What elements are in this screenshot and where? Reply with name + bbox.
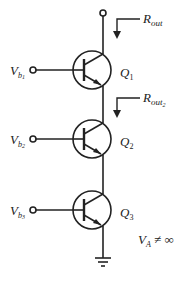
rout2-label: Rout2: [142, 90, 165, 108]
transistor-q3: [73, 191, 111, 229]
vb2-label: Vb2: [10, 132, 25, 149]
vb1-terminal: [30, 67, 36, 73]
va-condition-label: VA ≠ ∞: [138, 232, 174, 249]
transistor-q2: [73, 120, 111, 158]
ground-icon: [95, 258, 111, 266]
vb3-terminal: [30, 207, 36, 213]
q3-label: Q3: [120, 205, 133, 222]
rout-label: Rout: [142, 11, 163, 28]
output-terminal: [100, 10, 106, 16]
q2-label: Q2: [120, 134, 133, 151]
vb3-label: Vb3: [10, 203, 25, 220]
vb1-label: Vb1: [10, 63, 25, 80]
q1-label: Q1: [120, 65, 133, 82]
vb2-terminal: [30, 136, 36, 142]
rout-arrow-top: [113, 19, 140, 39]
circuit-diagram: Rout Rout2 Vb1 Vb2 Vb3 Q1 Q2 Q3 VA ≠ ∞: [0, 0, 192, 282]
transistor-q1: [73, 51, 111, 89]
rout-arrow-mid: [113, 98, 140, 118]
